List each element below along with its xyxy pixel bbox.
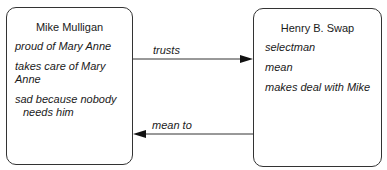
arrowhead-left-icon bbox=[133, 130, 146, 138]
relation-arrows bbox=[0, 0, 387, 170]
relation-label-trusts: trusts bbox=[153, 44, 180, 56]
arrow-trusts bbox=[133, 55, 253, 63]
relation-label-mean-to: mean to bbox=[152, 119, 192, 131]
arrowhead-right-icon bbox=[240, 55, 253, 63]
arrow-mean-to bbox=[133, 130, 253, 138]
